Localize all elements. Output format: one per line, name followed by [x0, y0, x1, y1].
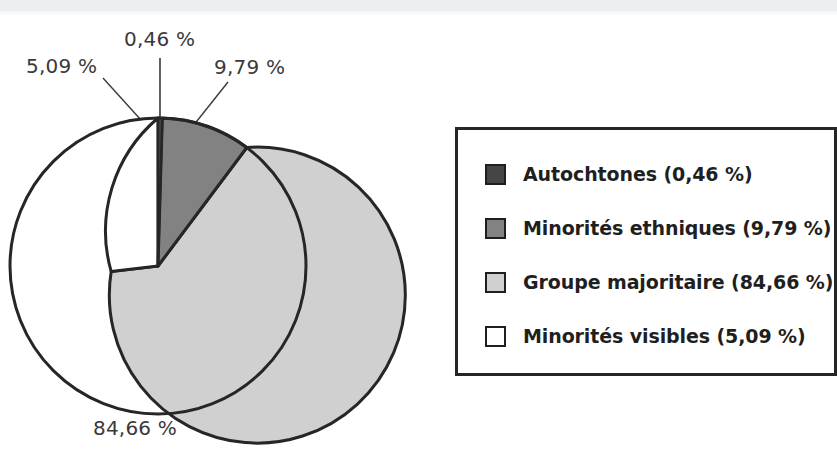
- legend-label-minorites-ethniques: Minorités ethniques (9,79 %): [523, 217, 831, 239]
- legend-item-list: Autochtones (0,46 %) Minorités ethniques…: [485, 147, 835, 363]
- legend-swatch-minorites-ethniques: [485, 218, 506, 239]
- legend-swatch-groupe-majoritaire: [485, 272, 506, 293]
- pie-label-groupe-majoritaire: 84,66 %: [93, 416, 177, 440]
- leader-line-visibles: [103, 78, 141, 120]
- pie-label-autochtones: 0,46 %: [124, 27, 195, 51]
- legend-label-autochtones: Autochtones (0,46 %): [523, 163, 753, 185]
- legend-item-minorites-ethniques: Minorités ethniques (9,79 %): [485, 201, 835, 255]
- leader-line-ethniques: [193, 82, 228, 126]
- legend-item-autochtones: Autochtones (0,46 %): [485, 147, 835, 201]
- scan-artifact-band: [0, 0, 837, 11]
- pie-chart-svg: [0, 16, 440, 466]
- legend-swatch-minorites-visibles: [485, 326, 506, 347]
- pie-slice-minorites-visibles: [106, 118, 158, 272]
- pie-label-minorites-visibles: 5,09 %: [26, 54, 97, 78]
- pie-label-minorites-ethniques: 9,79 %: [214, 55, 285, 79]
- legend-item-minorites-visibles: Minorités visibles (5,09 %): [485, 309, 835, 363]
- legend-item-groupe-majoritaire: Groupe majoritaire (84,66 %): [485, 255, 835, 309]
- chart-legend: Autochtones (0,46 %) Minorités ethniques…: [455, 127, 837, 376]
- legend-label-minorites-visibles: Minorités visibles (5,09 %): [523, 325, 806, 347]
- legend-label-groupe-majoritaire: Groupe majoritaire (84,66 %): [523, 271, 833, 293]
- legend-swatch-autochtones: [485, 164, 506, 185]
- pie-chart-figure: 0,46 % 5,09 % 9,79 % 84,66 %: [0, 16, 440, 466]
